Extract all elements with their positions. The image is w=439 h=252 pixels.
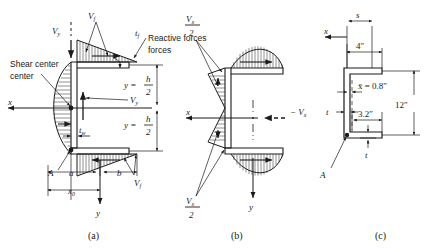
panel-b-caption: (b) (231, 230, 243, 242)
svg-text:y =: y = (123, 80, 136, 90)
panel-a-shear-center-label-line2: center (10, 71, 34, 81)
panel-a-reactive-forces-label: Reactive forces (148, 33, 207, 43)
panel-a-tf-label: tf (135, 28, 141, 39)
panel-c-point-A-label: A (319, 170, 326, 180)
panel-a-reactive-forces-label-line2: forces (148, 45, 171, 55)
panel-a-dim-b-label: b (117, 168, 122, 178)
panel-a-Vy-internal-label: Vy (130, 95, 139, 106)
panel-b-centroid-dot (252, 117, 254, 119)
panel-c-4in-label: 4″ (356, 41, 365, 51)
panel-a-y-eq-h-half-upper: y = h 2 (123, 74, 153, 97)
panel-a-Vy-top-label: Vy (52, 26, 61, 37)
panel-a-Vf-bottom-label: Vf (134, 178, 143, 189)
panel-b-y-axis-label: y (248, 202, 253, 212)
panel-b-section-outline (225, 68, 283, 154)
panel-b-Vx-half-bottom-label: Vx 2 (185, 196, 200, 220)
panel-a-plan-dimensions (48, 154, 137, 200)
figure-canvas: Shear center center Reactive forces forc… (0, 0, 439, 252)
panel-c-caption: (c) (375, 230, 386, 242)
panel-c-A-leader (331, 137, 346, 168)
panel-c-4in-dimension (347, 44, 382, 68)
panel-b-x-axis-label: x (185, 107, 190, 117)
panel-c-t-left-label: t (326, 107, 329, 117)
panel-a-point-A-label: A (47, 168, 54, 178)
panel-a-y-axis-label: y (95, 208, 100, 218)
panel-a-shear-center-label: Shear center (10, 59, 59, 69)
svg-text:y =: y = (123, 120, 136, 130)
panel-c-xbar-label: x̄ = 0.8″ (358, 81, 387, 91)
panel-b: Vx 2 Vx 2 x y − Vx (b) (185, 14, 307, 242)
panel-a-Vf-top-label: Vf (88, 11, 97, 22)
panel-c-section-outline (344, 68, 382, 138)
panel-b-bottom-flange-shear-distribution (231, 154, 283, 176)
svg-text:Vx: Vx (186, 196, 195, 207)
panel-c-3-2in-label: 3.2″ (358, 109, 373, 119)
panel-a-caption: (a) (88, 230, 99, 242)
panel-a-2-denominator-upper: 2 (146, 87, 151, 97)
panel-c-t-bottom-label: t (365, 150, 368, 160)
engineering-figure: Shear center center Reactive forces forc… (0, 0, 439, 252)
svg-text:2: 2 (189, 28, 194, 38)
panel-a-tw-label: tw (79, 125, 86, 136)
panel-a-x-axis-label: x (7, 97, 12, 107)
panel-c-t-bottom-dimension (360, 125, 376, 148)
panel-b-top-flange-shear-distribution (231, 46, 283, 68)
panel-a-h-numerator-lower: h (146, 114, 151, 124)
panel-c-s-label: s (356, 10, 360, 20)
panel-c-x-axis-label: x (323, 26, 328, 36)
panel-c: s x 4″ x̄ = 0.8″ 3.2″ 12″ t t A (c) (319, 10, 420, 242)
svg-text:Vx: Vx (186, 14, 195, 25)
svg-text:2: 2 (189, 210, 194, 220)
panel-a: Shear center center Reactive forces forc… (7, 11, 207, 242)
panel-c-point-A-marker (345, 133, 349, 137)
panel-a-dim-x0-label: x0 (67, 186, 75, 197)
panel-c-12in-label: 12″ (395, 100, 408, 110)
panel-a-2-denominator-lower: 2 (146, 127, 151, 137)
panel-a-dim-a-label: a (69, 168, 74, 178)
panel-a-h-numerator-upper: h (146, 74, 151, 84)
panel-b-minus-Vx-label: − Vx (290, 107, 307, 118)
panel-a-y-eq-h-half-lower: y = h 2 (123, 114, 153, 137)
